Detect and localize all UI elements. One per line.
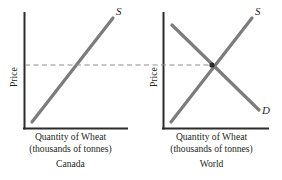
- canada-supply-curve: [32, 18, 113, 122]
- world-equilibrium-dot: [209, 62, 214, 67]
- canada-supply-label: S: [116, 5, 122, 17]
- world-y-axis-label: Price: [148, 67, 159, 87]
- canada-panel-title: Canada: [0, 158, 141, 170]
- canada-y-axis-label: Price: [8, 67, 19, 87]
- world-demand-curve: [172, 25, 259, 110]
- world-panel-title: World: [141, 158, 282, 170]
- world-caption: Quantity of Wheat (thousands of tonnes) …: [141, 131, 282, 170]
- world-x-axis-label-line1: Quantity of Wheat: [141, 131, 282, 143]
- canada-caption: Quantity of Wheat (thousands of tonnes) …: [0, 131, 141, 170]
- world-demand-label: D: [261, 104, 270, 116]
- world-supply-curve: [171, 18, 252, 122]
- world-supply-label: S: [255, 5, 261, 17]
- panel-canada: Price S: [8, 5, 127, 129]
- canada-x-axis-label-line2: (thousands of tonnes): [0, 143, 141, 155]
- canada-x-axis-label-line1: Quantity of Wheat: [0, 131, 141, 143]
- world-x-axis-label-line2: (thousands of tonnes): [141, 143, 282, 155]
- economics-figure: Price S Price S D Quantity: [0, 0, 282, 180]
- panel-world: Price S D: [148, 5, 270, 129]
